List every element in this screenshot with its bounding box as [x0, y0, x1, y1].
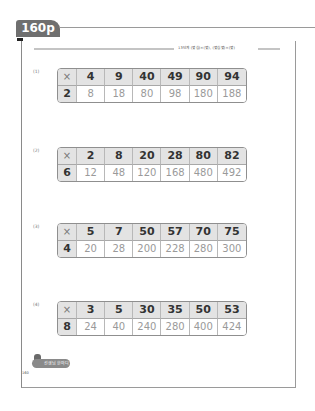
multiplier-cell: 4: [58, 241, 77, 258]
multiplicand-cell: 4: [77, 69, 105, 86]
product-cell: 28: [105, 241, 133, 258]
multiplicand-cell: 5: [77, 224, 105, 241]
multiplication-table: ×353035505382440240280400424: [57, 301, 247, 336]
multiplicand-cell: 40: [133, 69, 161, 86]
product-cell: 280: [190, 241, 218, 258]
problem-number: (3): [33, 224, 39, 229]
product-cell: 200: [133, 241, 161, 258]
multiplicand-cell: 9: [105, 69, 133, 86]
multiplication-table: ×575057707542028200228280300: [57, 223, 247, 258]
multiplicand-cell: 80: [190, 148, 218, 165]
product-cell: 480: [190, 165, 218, 182]
product-cell: 18: [105, 86, 133, 103]
multiplicand-cell: 8: [105, 148, 133, 165]
product-cell: 24: [77, 319, 105, 336]
problem-number: (1): [33, 69, 39, 74]
product-cell: 280: [161, 319, 189, 336]
multiplicand-cell: 5: [105, 302, 133, 319]
product-cell: 12: [77, 165, 105, 182]
header-rule-left: [34, 48, 174, 50]
multiplier-cell: 8: [58, 319, 77, 336]
multiplicand-cell: 7: [105, 224, 133, 241]
multiplicand-cell: 50: [190, 302, 218, 319]
product-cell: 240: [133, 319, 161, 336]
page-tab: 160p: [16, 20, 60, 37]
multiplicand-cell: 82: [218, 148, 246, 165]
product-cell: 424: [218, 319, 246, 336]
multiplicand-cell: 35: [161, 302, 189, 319]
operator-cell: ×: [58, 69, 77, 86]
teacher-note-badge-label: 선생님 한마디: [44, 360, 69, 366]
product-cell: 98: [161, 86, 189, 103]
product-cell: 80: [133, 86, 161, 103]
multiplicand-cell: 57: [161, 224, 189, 241]
product-cell: 188: [218, 86, 246, 103]
product-cell: 180: [190, 86, 218, 103]
multiplicand-cell: 3: [77, 302, 105, 319]
multiplier-cell: 2: [58, 86, 77, 103]
product-cell: 120: [133, 165, 161, 182]
header-rule-right: [258, 48, 280, 50]
tab-rule: [60, 27, 315, 28]
operator-cell: ×: [58, 224, 77, 241]
multiplicand-cell: 28: [161, 148, 189, 165]
product-cell: 20: [77, 241, 105, 258]
multiplication-table: ×282028808261248120168480492: [57, 147, 247, 182]
product-cell: 400: [190, 319, 218, 336]
multiplicand-cell: 49: [161, 69, 189, 86]
multiplicand-cell: 94: [218, 69, 246, 86]
multiplicand-cell: 30: [133, 302, 161, 319]
product-cell: 300: [218, 241, 246, 258]
product-cell: 40: [105, 319, 133, 336]
multiplicand-cell: 50: [133, 224, 161, 241]
section-header: 13단계 (몇십)×(몇), (몇십몇)×(몇): [178, 45, 235, 50]
product-cell: 48: [105, 165, 133, 182]
problem-number: (2): [33, 148, 39, 153]
multiplicand-cell: 53: [218, 302, 246, 319]
operator-cell: ×: [58, 302, 77, 319]
product-cell: 492: [218, 165, 246, 182]
page-number: 160: [22, 371, 29, 375]
multiplier-cell: 6: [58, 165, 77, 182]
multiplicand-cell: 75: [218, 224, 246, 241]
multiplicand-cell: 20: [133, 148, 161, 165]
multiplication-table: ×494049909428188098180188: [57, 68, 247, 103]
product-cell: 8: [77, 86, 105, 103]
multiplicand-cell: 90: [190, 69, 218, 86]
multiplicand-cell: 2: [77, 148, 105, 165]
product-cell: 168: [161, 165, 189, 182]
multiplicand-cell: 70: [190, 224, 218, 241]
operator-cell: ×: [58, 148, 77, 165]
problem-number: (4): [33, 302, 39, 307]
product-cell: 228: [161, 241, 189, 258]
